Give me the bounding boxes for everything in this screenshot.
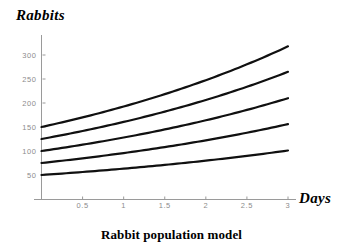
x-tick-group: 0.511.522.53 xyxy=(76,197,290,211)
chart-figure: Rabbits Days 50100150200250300 0.511.522… xyxy=(0,0,343,252)
x-tick-label: 2.5 xyxy=(241,201,253,210)
data-curve xyxy=(42,46,289,127)
y-tick-label: 50 xyxy=(27,171,37,180)
x-tick-label: 0.5 xyxy=(76,201,88,210)
x-tick-label: 2 xyxy=(203,201,208,210)
x-tick-label: 1 xyxy=(121,201,126,210)
y-tick-label: 150 xyxy=(22,123,36,132)
x-tick-label: 3 xyxy=(286,201,291,210)
x-axis: 0.511.522.53 xyxy=(34,197,296,211)
data-curve xyxy=(42,151,289,175)
data-curves xyxy=(42,46,289,175)
x-tick-label: 1.5 xyxy=(159,201,171,210)
y-tick-group: 50100150200250300 xyxy=(22,51,45,180)
chart-caption: Rabbit population model xyxy=(0,227,343,243)
y-tick-label: 200 xyxy=(22,99,36,108)
y-tick-label: 100 xyxy=(22,147,36,156)
y-tick-label: 250 xyxy=(22,75,36,84)
y-tick-label: 300 xyxy=(22,51,36,60)
plot-area: 50100150200250300 0.511.522.53 xyxy=(0,0,343,252)
data-curve xyxy=(42,98,289,151)
